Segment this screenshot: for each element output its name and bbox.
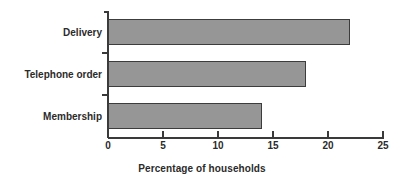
bar [108,19,350,45]
x-axis-tick [327,131,329,138]
y-axis-tick [102,94,108,96]
x-axis-tick-label: 25 [377,140,388,151]
x-axis-tick-label: 5 [160,140,166,151]
x-axis-line [108,137,384,139]
x-axis-tick-label: 20 [322,140,333,151]
category-label: Delivery [63,27,102,38]
x-axis-tick-label: 0 [105,140,111,151]
x-axis-tick-label: 10 [212,140,223,151]
x-axis-tick [217,131,219,138]
x-axis-title: Percentage of households [0,163,404,174]
x-axis-tick [162,131,164,138]
category-label: Membership [43,111,102,122]
category-label: Telephone order [24,69,102,80]
bar [108,61,306,87]
y-axis-tick [102,52,108,54]
bar [108,103,262,129]
x-axis-tick [272,131,274,138]
bar-chart: 0510152025 DeliveryTelephone orderMember… [0,0,404,192]
x-axis-tick [107,131,109,138]
x-axis-tick-label: 15 [267,140,278,151]
x-axis-tick [382,131,384,138]
